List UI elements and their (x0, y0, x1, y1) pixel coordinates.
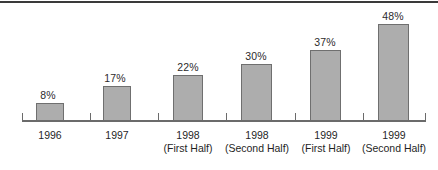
bar-value-label: 8% (32, 89, 64, 101)
bar-value-label: 30% (238, 50, 274, 62)
bar-1999-first-half (310, 50, 341, 121)
axis-tick (158, 113, 159, 120)
category-label-1999-second-half: 1999 (Second Half) (355, 129, 433, 155)
category-label-line1: 1998 (245, 129, 268, 141)
axis-tick (22, 113, 23, 120)
bar-value-label: 37% (307, 36, 343, 48)
plot-area: 8% 17% 22% 30% 37% 48% 1996 (0, 0, 438, 170)
axis-tick (425, 113, 426, 120)
category-label-line1: 1998 (176, 129, 199, 141)
bar-value-label: 48% (375, 10, 411, 22)
category-label-line2: (First Half) (290, 142, 362, 155)
x-axis-baseline (22, 120, 426, 122)
bar-value-label: 17% (99, 72, 131, 84)
category-label-1999-first-half: 1999 (First Half) (290, 129, 362, 155)
category-label-1997: 1997 (83, 129, 151, 142)
category-label-line2: (Second Half) (218, 142, 296, 155)
category-label-line1: 1999 (314, 129, 337, 141)
bar-value-label: 22% (170, 61, 206, 73)
bar-1996 (36, 103, 64, 121)
bar-chart-figure: 8% 17% 22% 30% 37% 48% 1996 (0, 0, 438, 170)
bar-1998-second-half (241, 64, 272, 121)
bar-1997 (103, 86, 131, 121)
axis-tick (90, 113, 91, 120)
axis-tick (363, 113, 364, 120)
category-label-1998-first-half: 1998 (First Half) (152, 129, 224, 155)
axis-tick (295, 113, 296, 120)
category-label-line2: (First Half) (152, 142, 224, 155)
bar-1998-first-half (173, 75, 203, 121)
category-label-1996: 1996 (16, 129, 84, 142)
category-label-line1: 1997 (105, 129, 128, 141)
category-label-line1: 1996 (38, 129, 61, 141)
bar-1999-second-half (378, 24, 409, 121)
category-label-line2: (Second Half) (355, 142, 433, 155)
axis-tick (226, 113, 227, 120)
category-label-1998-second-half: 1998 (Second Half) (218, 129, 296, 155)
category-label-line1: 1999 (382, 129, 405, 141)
